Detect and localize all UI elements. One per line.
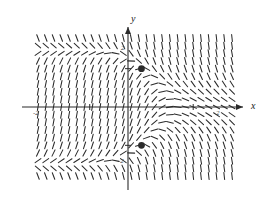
- slope-segment: [138, 42, 140, 49]
- slope-segment: [45, 119, 46, 126]
- slope-segment: [177, 58, 179, 65]
- slope-segment: [130, 81, 132, 88]
- slope-segment: [175, 90, 181, 93]
- slope-segment: [190, 113, 196, 116]
- slope-segment: [200, 150, 202, 157]
- slope-segment: [45, 88, 46, 95]
- slope-segment: [159, 122, 166, 123]
- slope-segment: [37, 81, 38, 88]
- slope-segment: [215, 81, 219, 87]
- slope-segment: [199, 127, 203, 133]
- slope-segment: [161, 58, 163, 65]
- slope-segment: [151, 129, 158, 131]
- slope-segment: [99, 142, 101, 149]
- slope-segment: [223, 73, 226, 79]
- slope-segment: [123, 96, 125, 103]
- slope-segment: [92, 96, 93, 103]
- slope-segment: [151, 136, 157, 139]
- slope-segment: [68, 111, 69, 118]
- slope-segment: [82, 159, 88, 163]
- slope-segment: [99, 111, 100, 118]
- slope-segment: [152, 143, 156, 149]
- slope-segment: [76, 96, 77, 103]
- slope-segment: [60, 142, 62, 149]
- slope-segment: [123, 35, 125, 42]
- slope-segment: [146, 157, 148, 164]
- slope-segment: [66, 166, 71, 171]
- slope-segment: [177, 150, 179, 157]
- slope-segment: [130, 111, 132, 118]
- slope-segment: [190, 98, 196, 101]
- slope-segment: [162, 35, 163, 42]
- slope-segment: [199, 134, 202, 140]
- slope-segment: [45, 81, 46, 88]
- slope-segment: [66, 159, 72, 163]
- slope-segment: [99, 173, 101, 180]
- slope-segment: [200, 42, 201, 49]
- slope-segment: [185, 173, 186, 180]
- slope-segment: [216, 35, 217, 42]
- slope-segment: [99, 119, 100, 126]
- slope-segment: [206, 113, 212, 117]
- slope-segment: [138, 96, 140, 103]
- slope-segment: [222, 81, 226, 87]
- slope-segment: [130, 96, 132, 103]
- slope-segment: [68, 73, 70, 80]
- slope-segment: [169, 142, 172, 148]
- slope-segment: [154, 173, 155, 180]
- slope-segment: [221, 113, 227, 117]
- slope-segment: [107, 96, 108, 103]
- slope-segment: [216, 150, 218, 157]
- slope-segment: [191, 127, 195, 133]
- slope-segment: [61, 88, 62, 95]
- slope-segment: [58, 159, 64, 163]
- slope-segment: [60, 65, 62, 72]
- slope-segment: [200, 58, 202, 65]
- slope-segment: [107, 88, 108, 95]
- slope-segment: [224, 50, 225, 57]
- slope-segment: [122, 66, 125, 72]
- slope-segment: [130, 119, 132, 126]
- slope-segment: [198, 120, 203, 125]
- slope-segment: [166, 99, 173, 100]
- slope-segment: [60, 35, 62, 42]
- slope-segment: [146, 35, 147, 42]
- slope-segment: [161, 50, 163, 57]
- slope-segment: [53, 111, 54, 118]
- slope-segment: [35, 43, 40, 48]
- slope-segment: [154, 35, 155, 42]
- slope-segment: [138, 173, 139, 180]
- slope-segment: [224, 165, 225, 172]
- slope-segment: [192, 142, 194, 149]
- slope-segment: [76, 134, 78, 141]
- slope-segment: [75, 150, 78, 156]
- slope-segment: [107, 127, 109, 134]
- slope-segment: [154, 50, 156, 57]
- slope-segment: [52, 65, 54, 72]
- slope-segment: [192, 150, 194, 157]
- slope-segment: [170, 35, 171, 42]
- slope-segment: [37, 35, 39, 42]
- slope-segment: [200, 165, 201, 172]
- slope-segment: [176, 142, 178, 149]
- slope-segment: [53, 73, 55, 80]
- slope-segment: [60, 134, 62, 141]
- slope-segment: [104, 160, 111, 161]
- slope-segment: [146, 173, 147, 180]
- slope-segment: [170, 173, 171, 180]
- slope-segment: [193, 157, 194, 164]
- slope-segment: [138, 111, 140, 118]
- slope-segment: [107, 111, 108, 118]
- slope-segment: [174, 99, 181, 101]
- slope-segment: [44, 58, 47, 64]
- slope-segment: [177, 173, 178, 180]
- slope-segment: [92, 88, 93, 95]
- slope-segment: [137, 50, 140, 56]
- slope-segment: [214, 89, 219, 94]
- slope-segment: [84, 111, 85, 118]
- slope-segment: [191, 89, 196, 94]
- slope-segment: [154, 165, 155, 172]
- slope-segment: [107, 73, 109, 80]
- slope-segment: [177, 50, 178, 57]
- slope-segment: [107, 134, 109, 141]
